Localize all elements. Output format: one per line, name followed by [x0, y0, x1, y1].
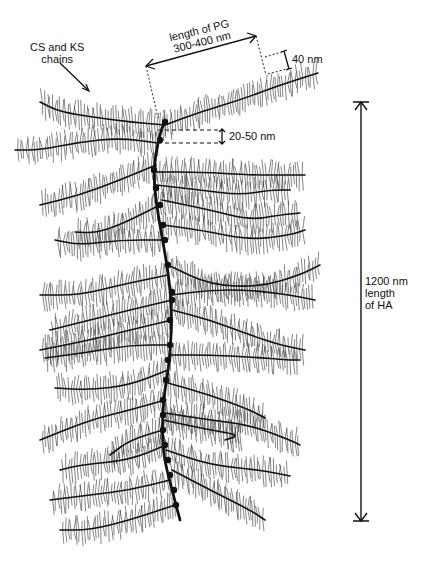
link-protein-node: [173, 502, 179, 508]
link-protein-node: [160, 397, 166, 403]
link-protein-node: [165, 262, 171, 268]
proteoglycan-core-protein: [157, 172, 305, 175]
pg-length-extension-right: [256, 36, 266, 75]
link-protein-node: [151, 167, 157, 173]
link-protein-node: [169, 289, 175, 295]
gag-chain-hairs: [43, 262, 168, 311]
width-extension-bottom: [268, 68, 290, 74]
cs-ks-label-line2: chains: [30, 53, 84, 65]
link-protein-node: [165, 457, 171, 463]
spacing-label: 20-50 nm: [229, 130, 275, 142]
ha-length-label-line3: of HA: [365, 299, 408, 311]
cs-ks-chains-label: CS and KS chains: [30, 41, 84, 65]
link-protein-node: [162, 237, 168, 243]
gag-chain-hairs: [42, 152, 156, 217]
gag-chain-hairs: [57, 357, 170, 405]
link-protein-node: [160, 222, 166, 228]
link-protein-node: [167, 342, 173, 348]
width-40nm-arrow: [281, 50, 292, 70]
link-protein-node: [167, 472, 173, 478]
ha-length-label: 1200 nm length of HA: [365, 275, 408, 311]
proteoglycan-core-protein: [15, 139, 158, 150]
link-protein-node: [169, 297, 175, 303]
proteoglycan-core-protein: [50, 480, 170, 500]
link-protein-node: [165, 357, 171, 363]
link-protein-node: [157, 202, 163, 208]
link-protein-node: [162, 442, 168, 448]
proteoglycan-core-protein: [165, 73, 318, 125]
ha-length-label-line2: length: [365, 287, 408, 299]
diagram-canvas: [0, 0, 424, 571]
gag-chain-hairs: [18, 123, 158, 165]
link-protein-node: [160, 427, 166, 433]
link-protein-node: [162, 119, 168, 125]
link-protein-node: [171, 487, 177, 493]
cs-ks-pointer-arrow: [60, 63, 88, 90]
proteoglycan-core-protein: [60, 445, 166, 470]
pg-width-label: 40 nm: [292, 53, 323, 65]
gag-chain-hairs: [163, 213, 305, 256]
cs-ks-label-line1: CS and KS: [30, 41, 84, 53]
link-protein-node: [160, 412, 166, 418]
proteoglycan-core-protein: [163, 420, 235, 440]
spacing-arrow: [219, 129, 225, 144]
ha-length-label-line1: 1200 nm: [365, 275, 408, 287]
link-protein-node: [153, 185, 159, 191]
proteoglycan-core-protein: [40, 400, 165, 440]
gag-chain-hairs: [168, 251, 319, 302]
link-protein-node: [157, 137, 163, 143]
link-protein-node: [163, 377, 169, 383]
link-protein-node: [167, 317, 173, 323]
proteoglycan-diagram: CS and KS chains length of PG 300-400 nm…: [0, 0, 424, 571]
